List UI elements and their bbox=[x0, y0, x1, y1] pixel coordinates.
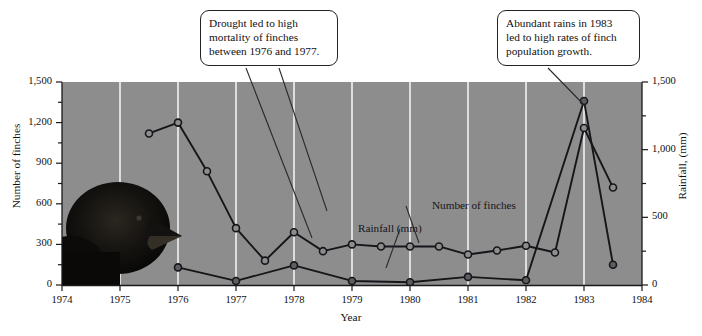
data-point-0-9 bbox=[407, 243, 414, 250]
data-point-1-0 bbox=[175, 264, 182, 271]
data-point-0-5 bbox=[291, 229, 298, 236]
data-point-1-2 bbox=[291, 262, 298, 269]
data-point-0-0 bbox=[146, 130, 153, 137]
data-point-0-1 bbox=[175, 119, 182, 126]
data-point-1-1 bbox=[233, 277, 240, 284]
data-point-0-4 bbox=[262, 257, 269, 264]
data-point-0-13 bbox=[523, 242, 530, 249]
xtick-label-1982: 1982 bbox=[500, 294, 552, 305]
series-label-rainfall: Rainfall (mm) bbox=[358, 222, 422, 234]
ytick-label-left-0: 0 bbox=[0, 278, 52, 289]
data-point-0-10 bbox=[436, 243, 443, 250]
data-point-1-3 bbox=[349, 277, 356, 284]
xtick-label-1977: 1977 bbox=[210, 294, 262, 305]
data-point-0-6 bbox=[320, 248, 327, 255]
data-point-0-14 bbox=[552, 249, 559, 256]
ytick-label-right-1500: 1,500 bbox=[652, 75, 700, 86]
ytick-label-right-0: 0 bbox=[652, 278, 700, 289]
data-point-0-11 bbox=[465, 251, 472, 258]
y-axis-right-title: Rainfall, (mm) bbox=[676, 111, 688, 221]
x-axis-title: Year bbox=[321, 311, 381, 323]
data-point-0-2 bbox=[204, 168, 211, 175]
data-point-1-4 bbox=[407, 279, 414, 286]
xtick-label-1976: 1976 bbox=[152, 294, 204, 305]
series-label-finches: Number of finches bbox=[432, 199, 516, 211]
xtick-label-1978: 1978 bbox=[268, 294, 320, 305]
y-axis-left-title: Number of finches bbox=[10, 111, 22, 221]
data-point-1-7 bbox=[581, 97, 588, 104]
figure-container: 03006009001,2001,500 05001,0001,500 1974… bbox=[0, 0, 702, 336]
xtick-label-1974: 1974 bbox=[36, 294, 88, 305]
callout-drought: Drought led to high mortality of finches… bbox=[200, 10, 338, 66]
xtick-label-1984: 1984 bbox=[616, 294, 668, 305]
xtick-label-1983: 1983 bbox=[558, 294, 610, 305]
data-point-0-7 bbox=[349, 241, 356, 248]
ytick-label-left-1200: 1,200 bbox=[0, 116, 52, 127]
xtick-label-1979: 1979 bbox=[326, 294, 378, 305]
data-point-1-6 bbox=[523, 277, 530, 284]
ytick-label-left-1500: 1,500 bbox=[0, 75, 52, 86]
ytick-label-left-300: 300 bbox=[0, 237, 52, 248]
xtick-label-1981: 1981 bbox=[442, 294, 494, 305]
callout-rains: Abundant rains in 1983 led to high rates… bbox=[497, 10, 640, 66]
ytick-label-left-900: 900 bbox=[0, 156, 52, 167]
data-point-1-5 bbox=[465, 273, 472, 280]
ytick-label-left-600: 600 bbox=[0, 197, 52, 208]
data-point-1-8 bbox=[610, 261, 617, 268]
data-point-0-16 bbox=[610, 184, 617, 191]
data-point-0-12 bbox=[494, 247, 501, 254]
data-point-0-3 bbox=[233, 225, 240, 232]
xtick-label-1975: 1975 bbox=[94, 294, 146, 305]
data-point-0-15 bbox=[581, 125, 588, 132]
xtick-label-1980: 1980 bbox=[384, 294, 436, 305]
data-point-0-8 bbox=[378, 243, 385, 250]
